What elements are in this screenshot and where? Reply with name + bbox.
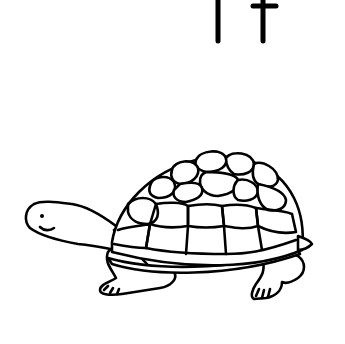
turtle-tail [298,236,312,250]
coloring-page: T t turtle [0,0,345,344]
turtle-illustration [0,0,345,344]
turtle-eye [40,214,44,218]
